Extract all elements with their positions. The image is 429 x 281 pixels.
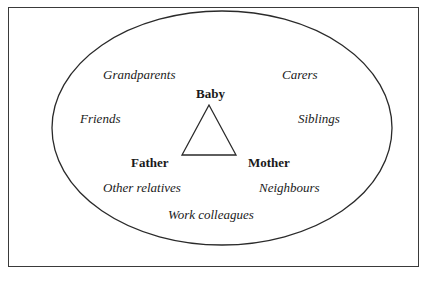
label-mother: Mother [248, 156, 290, 169]
label-father: Father [131, 156, 169, 169]
family-triangle [182, 105, 236, 155]
label-carers: Carers [282, 68, 318, 81]
label-baby: Baby [196, 87, 225, 100]
diagram-canvas [0, 0, 429, 281]
label-grandparents: Grandparents [103, 68, 175, 81]
label-other-relatives: Other relatives [103, 181, 181, 194]
label-neighbours: Neighbours [259, 181, 320, 194]
label-siblings: Siblings [298, 112, 340, 125]
label-friends: Friends [80, 112, 120, 125]
label-work-colleagues: Work colleagues [168, 208, 254, 221]
